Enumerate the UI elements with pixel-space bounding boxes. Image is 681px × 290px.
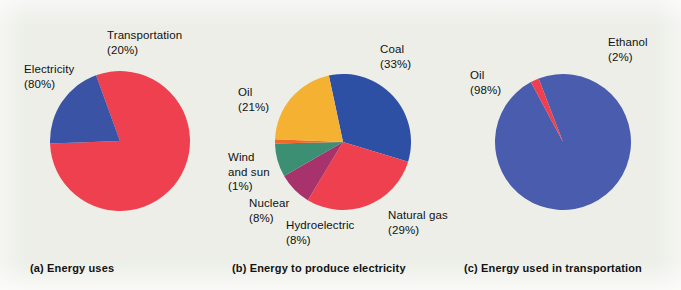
pie-label-wind-and-sun-pct: (1%) bbox=[228, 179, 270, 194]
panel-caption-a: (a) Energy uses bbox=[30, 262, 114, 274]
pie-label-hydroelectric: Hydroelectric (8%) bbox=[286, 218, 354, 247]
pie-label-ethanol-name: Ethanol bbox=[608, 36, 648, 48]
pie-label-natural-gas: Natural gas (29%) bbox=[388, 208, 448, 237]
pie-label-coal-pct: (33%) bbox=[380, 57, 411, 72]
pie-label-natural-gas-pct: (29%) bbox=[388, 223, 448, 238]
pie-label-ethanol-pct: (2%) bbox=[608, 50, 648, 65]
pie-label-nuclear: Nuclear (8%) bbox=[249, 196, 289, 225]
pie-chart-energy-to-produce-electricity-svg bbox=[274, 73, 412, 211]
pie-chart-energy-uses-svg bbox=[49, 70, 191, 212]
pie-label-nuclear-name: Nuclear bbox=[249, 197, 289, 209]
panel-caption-c: (c) Energy used in transportation bbox=[464, 262, 642, 274]
pie-label-transportation-name: Transportation bbox=[107, 29, 182, 41]
pie-label-transportation: Transportation (20%) bbox=[107, 28, 182, 57]
pie-label-nuclear-pct: (8%) bbox=[249, 211, 289, 226]
pie-label-hydroelectric-pct: (8%) bbox=[286, 233, 354, 248]
pie-label-coal: Coal (33%) bbox=[380, 42, 411, 71]
pie-label-coal-name: Coal bbox=[380, 43, 404, 55]
pie-chart-energy-used-in-transportation bbox=[494, 73, 632, 211]
panel-caption-b: (b) Energy to produce electricity bbox=[232, 262, 406, 274]
pie-label-electricity-name: Electricity bbox=[24, 63, 74, 75]
pie-chart-energy-to-produce-electricity bbox=[274, 73, 412, 211]
pie-label-oil-c-name: Oil bbox=[470, 69, 484, 81]
energy-pie-charts-figure: Electricity (80%) Transportation (20%) (… bbox=[0, 0, 681, 290]
pie-label-oil-b-name: Oil bbox=[238, 86, 252, 98]
pie-label-oil-c: Oil (98%) bbox=[470, 68, 501, 97]
pie-chart-energy-used-in-transportation-svg bbox=[494, 73, 632, 211]
pie-chart-energy-uses bbox=[49, 70, 191, 212]
pie-label-wind-and-sun-name-line1: Wind bbox=[228, 151, 255, 163]
pie-label-oil-b: Oil (21%) bbox=[238, 85, 269, 114]
pie-label-oil-b-pct: (21%) bbox=[238, 100, 269, 115]
pie-label-wind-and-sun-name-line2: and sun bbox=[228, 165, 270, 180]
pie-label-electricity-pct: (80%) bbox=[24, 77, 74, 92]
pie-label-wind-and-sun: Wind and sun (1%) bbox=[228, 150, 270, 194]
pie-label-oil-c-pct: (98%) bbox=[470, 83, 501, 98]
pie-label-ethanol: Ethanol (2%) bbox=[608, 35, 648, 64]
pie-label-transportation-pct: (20%) bbox=[107, 43, 182, 58]
pie-label-electricity: Electricity (80%) bbox=[24, 62, 74, 91]
pie-label-hydroelectric-name: Hydroelectric bbox=[286, 219, 354, 231]
pie-label-natural-gas-name: Natural gas bbox=[388, 209, 448, 221]
